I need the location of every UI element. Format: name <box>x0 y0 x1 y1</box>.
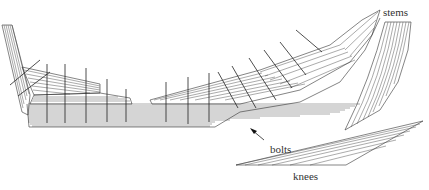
stems-label: stems <box>383 6 408 18</box>
ship-construction-diagram: bolts stems knees <box>0 0 429 190</box>
stems-shape <box>345 22 411 130</box>
hull-planking <box>28 104 360 126</box>
knees-shape <box>236 121 423 165</box>
stern-post <box>2 25 30 115</box>
stern-wedge <box>22 67 132 104</box>
bolts-arrow <box>250 128 264 140</box>
knees-label: knees <box>293 170 318 182</box>
bow-planking <box>150 10 380 104</box>
